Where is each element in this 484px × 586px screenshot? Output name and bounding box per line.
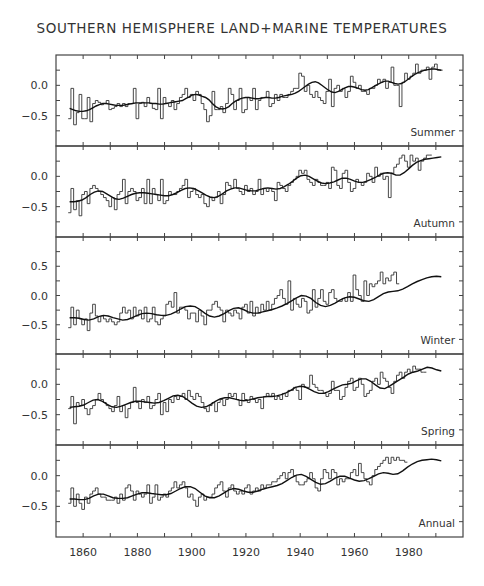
yearly-step-series (68, 457, 407, 509)
x-tick-label: 1880 (123, 546, 151, 559)
yearly-step-series (68, 272, 399, 331)
chart-panels: 0.0−0.5Summer0.0−0.5Autumn0.50.0−0.5Wint… (21, 55, 463, 537)
x-tick-label: 1940 (286, 546, 314, 559)
panel-annual: 0.0−0.5Annual (21, 445, 463, 537)
yearly-step-series (68, 64, 442, 125)
x-axis: 1860188019001920194019601980 (69, 546, 423, 559)
y-tick-label: 0.0 (31, 378, 49, 391)
x-tick-label: 1900 (178, 546, 206, 559)
x-tick-label: 1960 (340, 546, 368, 559)
y-tick-label: 0.0 (31, 290, 49, 303)
yearly-step-series (68, 366, 426, 424)
y-tick-label: 0.0 (31, 170, 49, 183)
season-label: Annual (419, 517, 456, 529)
panel-frame (56, 146, 463, 237)
panel-summer: 0.0−0.5Summer (21, 55, 463, 146)
season-label: Spring (421, 425, 455, 437)
y-tick-label: 0.0 (31, 79, 49, 92)
y-tick-label: −0.5 (21, 201, 48, 214)
y-tick-label: −0.5 (21, 110, 48, 123)
x-tick-label: 1860 (69, 546, 97, 559)
panel-autumn: 0.0−0.5Autumn (21, 146, 463, 237)
panel-winter: 0.50.0−0.5Winter (21, 237, 463, 354)
season-label: Autumn (414, 217, 456, 229)
y-tick-label: −0.5 (21, 319, 48, 332)
yearly-step-series (68, 155, 432, 216)
y-tick-label: −0.5 (21, 409, 48, 422)
y-tick-label: −0.5 (21, 500, 48, 513)
chart-canvas: 0.0−0.5Summer0.0−0.5Autumn0.50.0−0.5Wint… (0, 0, 484, 586)
y-tick-label: 0.0 (31, 470, 49, 483)
season-label: Summer (410, 126, 455, 138)
panel-spring: 0.0−0.5Spring (21, 354, 463, 445)
y-tick-label: 0.5 (31, 260, 49, 273)
panel-frame (56, 237, 463, 354)
x-tick-label: 1980 (395, 546, 423, 559)
x-tick-label: 1920 (232, 546, 260, 559)
season-label: Winter (420, 334, 455, 346)
